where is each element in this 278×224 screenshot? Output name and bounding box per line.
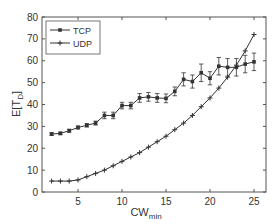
dot-marker — [50, 132, 54, 136]
y-tick-label: 30 — [27, 121, 39, 132]
x-tick-label: 10 — [116, 196, 128, 207]
dot-marker — [59, 132, 63, 136]
dot-marker — [120, 104, 124, 108]
dot-marker — [243, 62, 247, 66]
dot-marker — [208, 76, 212, 80]
dot-marker — [199, 71, 203, 75]
y-tick-label: 0 — [32, 187, 38, 198]
y-tick-label: 40 — [27, 99, 39, 110]
dot-marker — [103, 114, 107, 118]
y-tick-label: 20 — [27, 143, 39, 154]
dot-marker — [147, 95, 151, 99]
dot-marker — [173, 90, 177, 94]
dot-marker — [182, 78, 186, 82]
y-tick-label: 60 — [27, 55, 39, 66]
legend: TCPUDP — [46, 21, 100, 54]
y-tick-label: 70 — [27, 33, 39, 44]
dot-marker — [94, 121, 98, 125]
chart: 01020304050607080510152025 TCPUDP CWmin … — [0, 0, 278, 224]
dot-marker — [67, 129, 71, 133]
dot-marker — [76, 126, 80, 130]
x-tick-label: 20 — [204, 196, 216, 207]
dot-marker — [155, 96, 159, 100]
legend-label-tcp: TCP — [73, 26, 91, 36]
x-axis-label: CWmin — [130, 206, 161, 221]
series-tcp — [49, 53, 256, 136]
x-tick-label: 5 — [75, 196, 81, 207]
dot-marker — [58, 28, 62, 32]
y-axis-label: E[TD] — [10, 91, 25, 117]
x-tick-label: 25 — [248, 196, 260, 207]
legend-label-udp: UDP — [73, 39, 92, 49]
plot-area — [49, 32, 256, 184]
dot-marker — [226, 66, 230, 70]
dot-marker — [129, 104, 133, 108]
dot-marker — [164, 97, 168, 101]
dot-marker — [252, 60, 256, 64]
series-line — [52, 62, 254, 134]
dot-marker — [191, 80, 195, 84]
y-tick-label: 80 — [27, 12, 39, 23]
dot-marker — [85, 123, 89, 127]
y-tick-label: 10 — [27, 165, 39, 176]
dot-marker — [217, 64, 221, 68]
dot-marker — [138, 96, 142, 100]
series-udp — [49, 32, 256, 184]
series-line — [52, 35, 254, 182]
y-tick-label: 50 — [27, 77, 39, 88]
x-tick-label: 15 — [160, 196, 172, 207]
dot-marker — [111, 114, 115, 118]
